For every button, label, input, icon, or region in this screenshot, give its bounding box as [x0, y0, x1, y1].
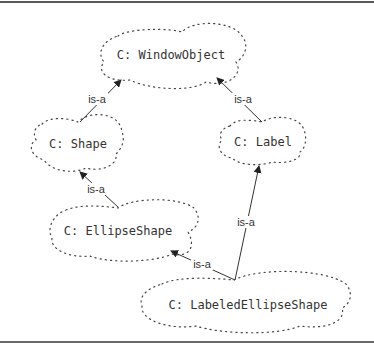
node-label: C: LabeledEllipseShape [169, 298, 328, 312]
node-windowobject[interactable]: C: WindowObject [101, 23, 246, 88]
edge-label: is-a [237, 216, 256, 228]
node-label: C: Label [234, 135, 292, 149]
node-ellipseshape[interactable]: C: EllipseShape [50, 200, 198, 261]
edge-label-windowobject: is-a [217, 78, 262, 122]
edge-shape-windowobject: is-a [80, 80, 121, 122]
edge-label: is-a [88, 93, 107, 105]
edge-label: is-a [87, 183, 106, 195]
edge-label: is-a [234, 93, 253, 105]
node-shape[interactable]: C: Shape [31, 115, 123, 172]
node-label: C: WindowObject [117, 48, 225, 62]
edge-ellipseshape-shape: is-a [80, 172, 118, 207]
edge-label: is-a [193, 258, 212, 270]
edge-labeledellipseshape-ellipseshape: is-a [171, 251, 235, 280]
edge-labeledellipseshape-label: is-a [235, 166, 259, 280]
node-labeledellipseshape[interactable]: C: LabeledEllipseShape [141, 271, 350, 332]
node-label-class[interactable]: C: Label [219, 117, 305, 164]
node-label: C: EllipseShape [64, 224, 172, 238]
class-diagram: is-a is-a is-a is-a is-a C: WindowObject… [0, 0, 374, 356]
node-label: C: Shape [49, 137, 107, 151]
